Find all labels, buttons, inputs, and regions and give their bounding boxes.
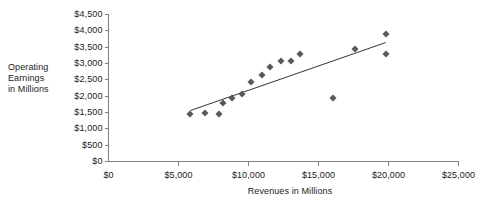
axes xyxy=(105,14,459,166)
scatter-chart: Operating Earnings in Millions Revenues … xyxy=(0,0,480,211)
trendline xyxy=(190,43,385,111)
trendline-segment xyxy=(190,43,385,111)
plot-area xyxy=(0,0,480,211)
